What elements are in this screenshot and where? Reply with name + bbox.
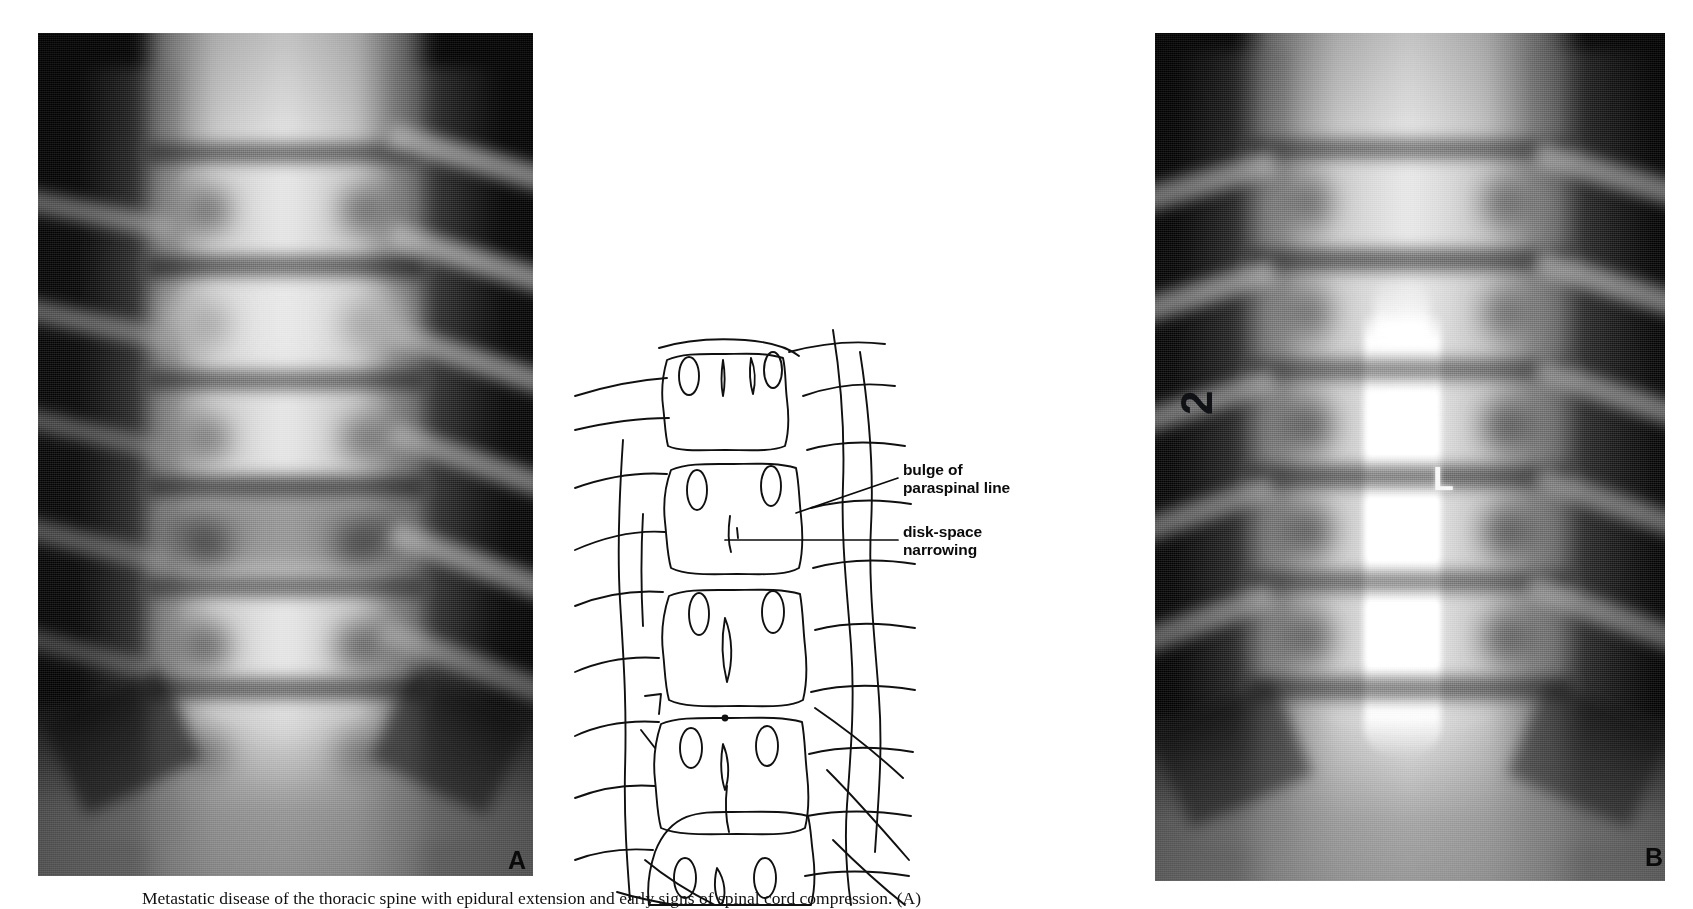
panel-b-letter: B <box>1645 845 1663 870</box>
rib-right-7 <box>811 686 915 692</box>
disk-space-marker-dot <box>722 715 729 722</box>
vertebra-body-1 <box>662 354 788 451</box>
spinous-process-1 <box>722 360 725 396</box>
figure-caption: Metastatic disease of the thoracic spine… <box>142 888 1612 909</box>
left-transverse-mark <box>645 694 661 714</box>
annotation-disk-space-narrowing: disk-space narrowing <box>903 523 982 558</box>
rib-right-3 <box>807 443 905 450</box>
panel-b-radiograph: 2 L <box>1155 33 1665 881</box>
spinous-process-4 <box>721 744 728 790</box>
spinous-process-2 <box>729 516 731 552</box>
rib-left-9 <box>575 849 653 860</box>
spine-line-diagram <box>575 300 915 905</box>
spinous-process-3 <box>723 618 732 682</box>
vertebra-body-3 <box>662 590 806 707</box>
pedicle-4-left <box>680 728 702 768</box>
pedicle-2-right <box>761 466 781 506</box>
film-vignette-a <box>38 33 533 876</box>
rib-right-5 <box>813 561 915 568</box>
panel-b-film: 2 L <box>1155 33 1665 881</box>
rib-left-4 <box>575 532 665 550</box>
pedicle-1-right <box>764 352 782 388</box>
pedicle-4-right <box>756 726 778 766</box>
film-vignette-b <box>1155 33 1665 881</box>
left-transverse-mark-2 <box>641 730 655 748</box>
rib-right-10 <box>805 872 909 877</box>
spine-diagram-svg <box>575 300 915 905</box>
vertebra-body-2 <box>664 464 802 575</box>
rib-right-2 <box>803 384 895 396</box>
left-costal-line <box>642 514 644 626</box>
rib-right-9 <box>807 812 911 817</box>
annotation-bulge-of-paraspinal-line: bulge of paraspinal line <box>903 461 1010 496</box>
rib-left-1 <box>575 378 667 396</box>
pedicle-2-left <box>687 470 707 510</box>
spinous-process-1b <box>750 358 755 394</box>
spinous-process-2-tick <box>737 528 738 538</box>
spinous-process-4b <box>726 786 729 832</box>
oblique-right-3 <box>815 708 903 778</box>
rib-left-2 <box>575 418 669 430</box>
pedicle-3-left <box>689 593 709 635</box>
rib-left-7 <box>575 722 659 736</box>
vertebra-body-4 <box>654 718 808 835</box>
panel-a-film <box>38 33 533 876</box>
pedicle-1-left <box>679 357 699 395</box>
rib-right-6 <box>815 624 915 630</box>
panel-a-letter: A <box>508 848 526 873</box>
right-paraspinal-line-outer <box>860 352 880 852</box>
pedicle-3-right <box>762 591 784 633</box>
rib-right-4 <box>811 501 911 508</box>
left-paraspinal-line <box>619 440 630 900</box>
rib-left-8 <box>575 786 655 799</box>
panel-a-radiograph <box>38 33 533 876</box>
right-paraspinal-line <box>833 330 853 905</box>
rib-left-6 <box>575 658 659 672</box>
rib-right-8 <box>809 748 913 754</box>
